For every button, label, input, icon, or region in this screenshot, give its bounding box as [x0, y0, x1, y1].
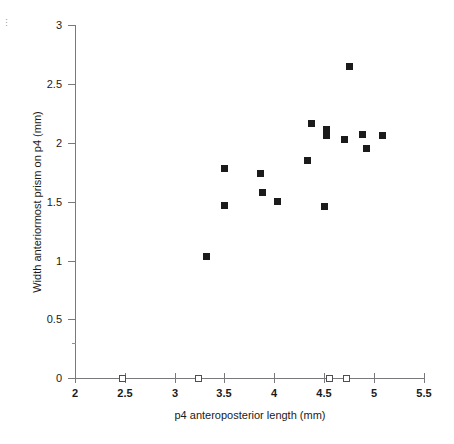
data-point	[195, 375, 202, 382]
data-point	[326, 375, 333, 382]
y-axis-title: Width anteriormost prism on p4 (mm)	[31, 62, 43, 342]
x-tick-5-5	[424, 373, 425, 383]
x-tick-label-4-5: 4.5	[304, 387, 344, 399]
data-point	[259, 189, 266, 196]
x-tick-label-4: 4	[254, 387, 294, 399]
x-tick-label-2: 2	[55, 387, 95, 399]
data-point	[321, 203, 328, 210]
x-tick-label-5: 5	[354, 387, 394, 399]
data-point	[119, 375, 126, 382]
x-axis-line	[75, 378, 425, 379]
data-point	[308, 120, 315, 127]
data-point	[203, 253, 210, 260]
data-point	[221, 165, 228, 172]
data-point	[221, 202, 228, 209]
scatter-plot-figure: ⋮ 0 0.5 1 1.5 2 2.5 3 2 2.5 3 3.5 4 4.5 …	[0, 0, 454, 444]
x-tick-label-2-5: 2.5	[105, 387, 145, 399]
x-tick-label-5-5: 5.5	[404, 387, 444, 399]
y-tick-label-0: 0	[22, 372, 62, 384]
registration-mark: ⋮	[2, 20, 5, 32]
x-tick-label-3: 3	[155, 387, 195, 399]
registration-mark-glyph: ⋮	[2, 20, 5, 26]
data-point	[323, 132, 330, 139]
data-point	[379, 132, 386, 139]
x-tick-label-3-5: 3.5	[204, 387, 244, 399]
x-axis-title: p4 anteroposterior length (mm)	[75, 409, 425, 421]
data-point	[304, 157, 311, 164]
data-point	[343, 375, 350, 382]
plot-area	[75, 25, 424, 378]
data-point	[341, 136, 348, 143]
data-point	[363, 145, 370, 152]
data-point	[346, 63, 353, 70]
data-point	[274, 198, 281, 205]
data-point	[359, 131, 366, 138]
data-point	[257, 170, 264, 177]
y-tick-label-3: 3	[22, 19, 62, 31]
